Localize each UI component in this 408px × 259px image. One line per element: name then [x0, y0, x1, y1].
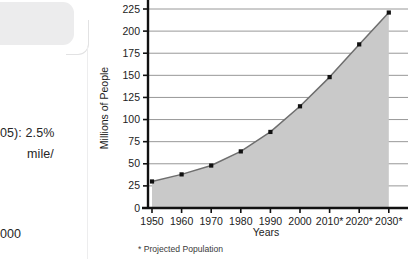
x-axis-tick-label: 1960 — [170, 215, 194, 227]
data-point-marker — [268, 130, 272, 134]
y-axis-tick-labels: 0255075100125150175200225 — [122, 3, 140, 214]
chart-footnote: * Projected Population — [138, 244, 223, 254]
data-point-marker — [298, 104, 302, 108]
y-axis-tick-label: 125 — [122, 91, 140, 103]
x-axis-tick-label: 1980 — [229, 215, 253, 227]
page-margin-fragment: 05): 2.5% mile/ 000 — [0, 0, 96, 259]
y-axis-tick-label: 225 — [122, 3, 140, 15]
margin-text-line-1: 05): 2.5% — [0, 126, 54, 140]
y-axis-tick-label: 75 — [128, 135, 140, 147]
data-point-marker — [328, 75, 332, 79]
x-axis-tick-label: 2020* — [345, 215, 372, 227]
chart-canvas: 0255075100125150175200225 19501960197019… — [96, 0, 408, 259]
data-point-marker — [239, 149, 243, 153]
y-axis-tick-label: 150 — [122, 69, 140, 81]
y-axis-tick-label: 100 — [122, 113, 140, 125]
data-point-marker — [209, 163, 213, 167]
data-point-marker — [150, 179, 154, 183]
x-axis-tick-label: 1970 — [200, 215, 224, 227]
y-axis-tick-label: 50 — [128, 157, 140, 169]
data-point-marker — [180, 172, 184, 176]
margin-text-line-2: mile/ — [27, 147, 54, 161]
data-point-marker — [387, 10, 391, 14]
callout-box-shape — [0, 2, 74, 45]
population-area-chart: 0255075100125150175200225 19501960197019… — [96, 0, 408, 259]
margin-divider-rule — [87, 46, 88, 259]
area-fill-path — [152, 13, 389, 208]
x-axis-title: Years — [253, 226, 279, 238]
y-axis-tick-label: 25 — [128, 179, 140, 191]
margin-text-line-3: 000 — [0, 227, 21, 241]
y-axis-tick-label: 175 — [122, 47, 140, 59]
chart-area-fill — [152, 13, 389, 208]
x-axis-tick-label: 2030* — [375, 215, 402, 227]
y-axis-title: Millions of People — [98, 67, 110, 149]
callout-tail-shape — [66, 20, 89, 55]
y-axis-tick-label: 0 — [134, 202, 140, 214]
data-point-marker — [357, 42, 361, 46]
x-axis-tick-label: 2010* — [316, 215, 343, 227]
x-axis-tick-label: 2000 — [288, 215, 312, 227]
y-axis-tick-label: 200 — [122, 25, 140, 37]
x-axis-tick-label: 1950 — [140, 215, 164, 227]
